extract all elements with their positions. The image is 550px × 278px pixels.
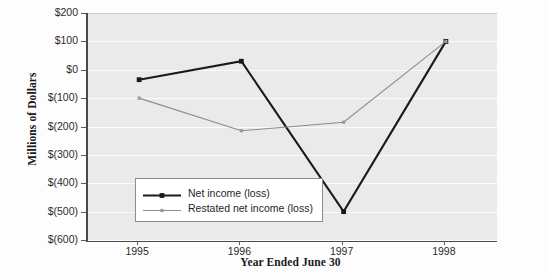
- y-tick-label: $(100): [14, 91, 78, 103]
- data-point-marker: [240, 129, 243, 132]
- legend-item: Restated net income (loss): [142, 200, 313, 215]
- y-tick-label: $(500): [14, 205, 78, 217]
- data-point-marker: [137, 77, 142, 82]
- data-point-marker: [138, 97, 141, 100]
- x-tick-label: 1997: [307, 245, 377, 257]
- data-point-marker: [239, 59, 244, 64]
- x-tick-mark: [137, 241, 138, 245]
- y-tick-label: $(200): [14, 120, 78, 132]
- plot-area: Net income (loss)Restated net income (lo…: [86, 13, 497, 242]
- plot-inner: Net income (loss)Restated net income (lo…: [88, 13, 497, 240]
- x-tick-label: 1996: [204, 245, 274, 257]
- legend-swatch-icon: [142, 187, 182, 198]
- x-tick-mark: [342, 241, 343, 245]
- x-tick-label: 1995: [102, 245, 172, 257]
- data-point-marker: [444, 40, 447, 43]
- chart-figure: Millions of Dollars Year Ended June 30 $…: [0, 0, 550, 278]
- y-tick-label: $0: [14, 63, 78, 75]
- legend-label: Net income (loss): [188, 187, 270, 199]
- legend-item: Net income (loss): [142, 185, 313, 200]
- y-tick-label: $200: [14, 6, 78, 18]
- y-tick-label: $(400): [14, 176, 78, 188]
- legend-swatch-icon: [142, 202, 182, 213]
- x-tick-mark: [444, 241, 445, 245]
- y-tick-label: $(600): [14, 233, 78, 245]
- y-tick-label: $100: [14, 34, 78, 46]
- chart-legend: Net income (loss)Restated net income (lo…: [135, 178, 323, 222]
- x-tick-mark: [239, 241, 240, 245]
- legend-label: Restated net income (loss): [188, 202, 313, 214]
- data-point-marker: [342, 121, 345, 124]
- y-tick-label: $(300): [14, 148, 78, 160]
- x-tick-label: 1998: [409, 245, 479, 257]
- data-point-marker: [341, 209, 346, 214]
- gridline: [88, 240, 497, 241]
